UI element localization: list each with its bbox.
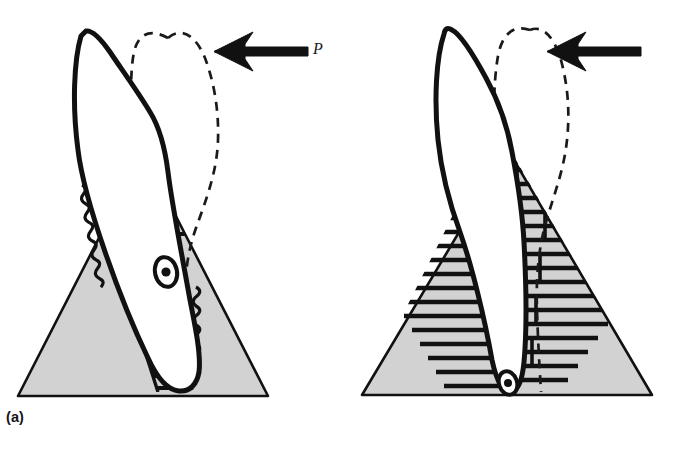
force-label-a: P (313, 41, 323, 57)
rotation-center-dot-b (504, 379, 512, 387)
force-arrow-a (214, 32, 308, 71)
panel-label-a: (a) (6, 410, 24, 425)
force-arrow-shape-a (214, 32, 308, 71)
panel-a-drawing (0, 0, 340, 464)
figure-root: (a) P (0, 0, 673, 464)
panel-a: (a) P (0, 0, 340, 464)
panel-b: (b) P (340, 0, 673, 464)
panel-b-drawing (340, 0, 673, 464)
rotation-center-dot-a (161, 267, 170, 276)
